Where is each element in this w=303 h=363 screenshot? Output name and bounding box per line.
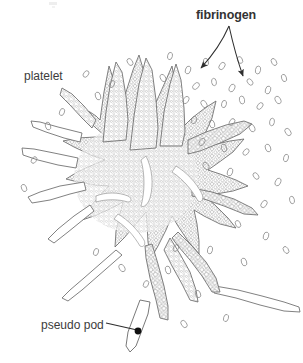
platelet-figure: fibrinogen platelet pseudo pod — [0, 0, 303, 363]
fibrinogen-label: fibrinogen — [196, 9, 256, 22]
platelet-label: platelet — [24, 70, 63, 82]
pseudo-pod-label: pseudo pod — [41, 319, 104, 331]
pseudo-pod-leader-dot — [135, 328, 142, 335]
platelet-illustration — [0, 0, 303, 363]
